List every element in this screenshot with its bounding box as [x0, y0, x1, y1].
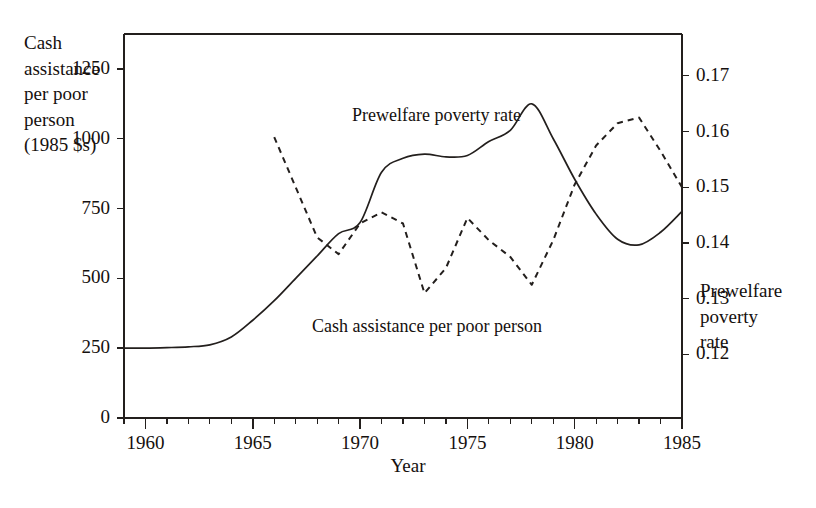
y-tick-label-left: 500 [0, 266, 110, 288]
x-tick-label: 1985 [642, 432, 722, 454]
y-tick-label-right: 0.12 [696, 342, 729, 364]
axes-group [117, 34, 689, 429]
x-tick-label: 1960 [105, 432, 185, 454]
y-tick-label-right: 0.13 [696, 287, 729, 309]
series-line-prewelfare-poverty-rate [274, 118, 682, 294]
y-tick-label-right: 0.16 [696, 120, 729, 142]
y-tick-label-left: 1250 [0, 57, 110, 79]
y-tick-label-left: 0 [0, 406, 110, 428]
y-tick-label-left: 750 [0, 197, 110, 219]
x-tick-label: 1970 [320, 432, 400, 454]
y-tick-label-right: 0.14 [696, 231, 729, 253]
x-tick-label: 1965 [213, 432, 293, 454]
y-tick-label-left: 250 [0, 336, 110, 358]
y-tick-label-right: 0.15 [696, 175, 729, 197]
x-tick-label: 1975 [427, 432, 507, 454]
y-tick-label-right: 0.17 [696, 64, 729, 86]
chart-figure: Cash assistance per poor person (1985 $s… [0, 0, 816, 508]
series-group [124, 104, 682, 348]
y-tick-label-left: 1000 [0, 127, 110, 149]
x-tick-label: 1980 [535, 432, 615, 454]
